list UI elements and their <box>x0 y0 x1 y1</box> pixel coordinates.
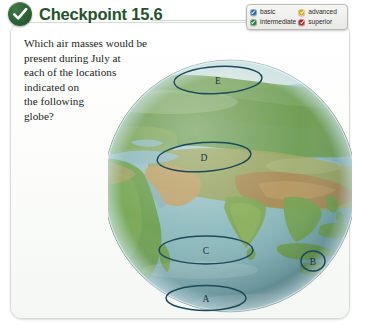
question-line: present during July at <box>24 51 184 66</box>
annotation-label: C <box>203 246 209 256</box>
legend-label: superior <box>308 17 332 27</box>
legend-item-basic: basic <box>250 7 296 17</box>
check-circle-icon <box>250 19 257 26</box>
question-text: Which air masses would be present during… <box>24 36 184 124</box>
annotation-label: A <box>203 294 210 304</box>
legend-label: basic <box>260 7 275 17</box>
legend-item-intermediate: intermediate <box>250 17 296 27</box>
annotation-label: D <box>201 153 208 163</box>
legend-label: intermediate <box>260 17 296 27</box>
legend-item-advanced: advanced <box>298 7 344 17</box>
checkpoint-screenshot: Checkpoint 15.6 basic advanced intermedi… <box>0 0 382 334</box>
question-line: the following <box>24 94 184 109</box>
legend-label: advanced <box>308 7 337 17</box>
check-circle-icon <box>298 19 305 26</box>
question-line: Which air masses would be <box>24 36 184 51</box>
checkpoint-header: Checkpoint 15.6 <box>8 2 163 26</box>
question-line: each of the locations <box>24 65 184 80</box>
check-circle-icon <box>250 9 257 16</box>
annotation-label: E <box>215 76 221 86</box>
title-divider <box>152 20 256 21</box>
annotation-label: B <box>310 257 316 267</box>
legend-item-superior: superior <box>298 17 344 27</box>
question-line: indicated on <box>24 80 184 95</box>
difficulty-legend: basic advanced intermediate superior <box>246 4 348 30</box>
question-line: globe? <box>24 109 184 124</box>
check-circle-icon <box>298 9 305 16</box>
page-title: Checkpoint 15.6 <box>39 5 163 24</box>
check-circle-icon <box>8 2 32 26</box>
